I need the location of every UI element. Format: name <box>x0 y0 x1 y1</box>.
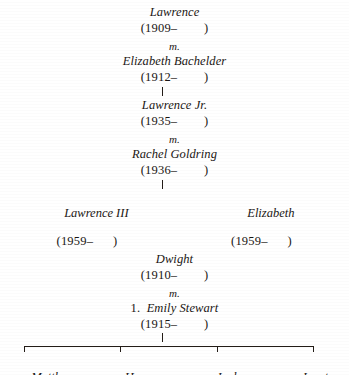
spouse-dates-rachel-goldring: (1936– ) <box>0 164 349 177</box>
spouse-line-emily-stewart: 1. Emily Stewart <box>0 302 349 315</box>
child-name-lawrence-iii: Lawrence III <box>64 206 128 220</box>
marriage-marker-dwight: m. <box>0 287 349 300</box>
child-matthew: Matthew (1945– ) <box>0 356 87 375</box>
connector-dwight-stem <box>162 333 163 342</box>
person-dates-lawrence: (1909– ) <box>0 22 349 35</box>
child-janet: Janet (1953– ) <box>262 356 349 375</box>
sibling-tick-janet <box>313 346 314 352</box>
sibling-tick-matthew <box>24 346 25 352</box>
child-henry: Henry (1947– ) <box>87 356 174 375</box>
person-dates-dwight: (1910– ) <box>0 269 349 282</box>
spouse-number-emily-stewart: 1. <box>131 301 141 315</box>
child-name-janet: Janet <box>301 370 328 375</box>
child-dates-elizabeth: (1959– ) <box>174 234 349 248</box>
person-name-dwight: Dwight <box>0 253 349 266</box>
child-name-matthew: Matthew <box>31 370 75 375</box>
spouse-name-elizabeth-bachelder: Elizabeth Bachelder <box>0 55 349 68</box>
person-name-lawrence-jr: Lawrence Jr. <box>0 99 349 112</box>
person-dates-lawrence-jr: (1935– ) <box>0 115 349 128</box>
spouse-dates-emily-stewart: (1915– ) <box>0 318 349 331</box>
child-jack: Jack (1951– ) <box>175 356 262 375</box>
child-name-elizabeth: Elizabeth <box>247 206 294 220</box>
connector-lawrence-jr-to-children <box>162 180 163 189</box>
children-row-dwight: Matthew (1945– ) Henry (1947– ) Jack (19… <box>0 356 349 375</box>
sibling-tick-jack <box>217 346 218 352</box>
child-name-jack: Jack <box>216 370 239 375</box>
child-name-henry: Henry <box>125 370 156 375</box>
spouse-name-emily-stewart: Emily Stewart <box>147 301 219 315</box>
spouse-name-rachel-goldring: Rachel Goldring <box>0 148 349 161</box>
spouse-dates-elizabeth-bachelder: (1912– ) <box>0 71 349 84</box>
child-dates-lawrence-iii: (1959– ) <box>0 234 174 248</box>
genealogy-chart-page: Lawrence (1909– ) m. Elizabeth Bachelder… <box>0 0 349 375</box>
sibling-bar-dwight-children <box>24 346 314 347</box>
marriage-marker-lawrence-jr: m. <box>0 133 349 146</box>
connector-lawrence-to-lawrence-jr <box>162 87 163 96</box>
marriage-marker-lawrence: m. <box>0 40 349 53</box>
person-name-lawrence: Lawrence <box>0 6 349 19</box>
sibling-tick-henry <box>120 346 121 352</box>
